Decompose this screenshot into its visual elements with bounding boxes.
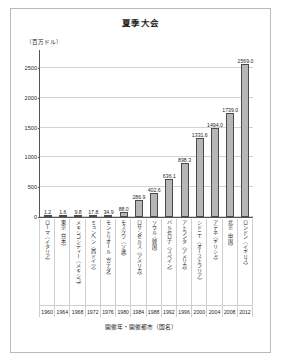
year-tick-label: 2000 <box>192 306 207 317</box>
bar-value-label: 1.6 <box>59 209 66 215</box>
category-label: モントリオール（カナダ） <box>105 219 110 305</box>
year-tick-label: 1980 <box>116 306 131 317</box>
chart-title: 夏季大会 <box>0 16 281 28</box>
y-tick-label: 1500 <box>25 125 37 131</box>
category-cell: アテネ（ギリシャ） <box>207 219 222 305</box>
year-tick-label: 1988 <box>147 306 162 317</box>
category-cell: メキシコシティー（メキシコ） <box>70 219 85 305</box>
category-cell: ロンドン（イギリス） <box>238 219 253 305</box>
bar-value-label: 88.0 <box>119 206 129 212</box>
bar[interactable]: 1331.6 <box>196 138 204 217</box>
year-tick-label: 1968 <box>70 306 85 317</box>
bar[interactable]: 2569.0 <box>241 64 249 217</box>
bar-slot: 1494.0 <box>207 50 222 217</box>
bar-slot: 1331.6 <box>192 50 207 217</box>
bar[interactable]: 286.9 <box>135 200 143 217</box>
y-tick-mark <box>38 217 41 218</box>
category-cell: ロサンゼルス（アメリカ） <box>131 219 146 305</box>
chart-page: 夏季大会 （百万ドル） 05001000150020002500 1.21.69… <box>0 0 281 361</box>
category-label: ローマ（イタリア） <box>44 219 49 305</box>
y-axis-unit-label: （百万ドル） <box>26 38 62 46</box>
y-tick-label: 2500 <box>25 65 37 71</box>
bar[interactable]: 9.8 <box>74 215 82 217</box>
bar-slot: 402.6 <box>147 50 162 217</box>
category-cell: 東京（日本） <box>55 219 70 305</box>
category-label: シドニー（オーストラリア） <box>197 219 202 305</box>
category-label: 北京（中国） <box>227 219 232 305</box>
bar-series: 1.21.69.817.834.988.0286.9402.6636.1898.… <box>40 50 253 217</box>
bar-value-label: 1739.0 <box>222 107 238 113</box>
bar-slot: 34.9 <box>101 50 116 217</box>
year-tick-label: 1972 <box>86 306 101 317</box>
year-tick-label: 1976 <box>101 306 116 317</box>
bar-value-label: 9.8 <box>74 209 81 215</box>
bar[interactable]: 402.6 <box>150 193 158 217</box>
year-tick-label: 1984 <box>131 306 146 317</box>
year-tick-label: 2004 <box>207 306 222 317</box>
category-cell: モントリオール（カナダ） <box>101 219 116 305</box>
y-tick-label: 2000 <box>25 95 37 101</box>
bar-slot: 2569.0 <box>238 50 253 217</box>
bar[interactable]: 1494.0 <box>211 128 219 217</box>
y-tick-label: 500 <box>28 184 37 190</box>
bar-value-label: 34.9 <box>103 209 113 215</box>
category-cell: バルセロナ（スペイン） <box>162 219 177 305</box>
bar[interactable]: 636.1 <box>165 179 173 217</box>
bar[interactable]: 17.8 <box>89 215 97 217</box>
bar-value-label: 286.9 <box>132 194 145 200</box>
bar-value-label: 636.1 <box>163 173 176 179</box>
bar[interactable]: 1739.0 <box>226 113 234 217</box>
category-label: バルセロナ（スペイン） <box>166 219 171 305</box>
category-label: 東京（日本） <box>60 219 65 305</box>
bar-value-label: 2569.0 <box>238 58 254 64</box>
bar[interactable]: 88.0 <box>120 212 128 217</box>
category-cell: ミュンヘン（西ドイツ） <box>86 219 101 305</box>
year-tick-label: 1996 <box>177 306 192 317</box>
category-cell: ローマ（イタリア） <box>39 219 55 305</box>
year-tick-label: 1964 <box>55 306 70 317</box>
year-tick-label: 2012 <box>238 306 253 317</box>
bar[interactable]: 34.9 <box>104 215 112 217</box>
category-labels: ローマ（イタリア）東京（日本）メキシコシティー（メキシコ）ミュンヘン（西ドイツ）… <box>39 219 253 305</box>
year-tick-label: 1992 <box>162 306 177 317</box>
y-tick-label: 1000 <box>25 154 37 160</box>
category-label: ミュンヘン（西ドイツ） <box>90 219 95 305</box>
category-label: ソウル（韓国） <box>151 219 156 305</box>
category-cell: シドニー（オーストラリア） <box>192 219 207 305</box>
bar-slot: 636.1 <box>162 50 177 217</box>
category-cell: ソウル（韓国） <box>147 219 162 305</box>
bar-value-label: 1494.0 <box>207 122 223 128</box>
category-cell: 北京（中国） <box>223 219 238 305</box>
category-label: モスクワ（ソ連） <box>121 219 126 305</box>
bar[interactable]: 1.2 <box>44 215 52 217</box>
bar-slot: 898.3 <box>177 50 192 217</box>
bar-slot: 1.2 <box>40 50 55 217</box>
category-cell: アトランタ（アメリカ） <box>177 219 192 305</box>
bar-slot: 286.9 <box>131 50 146 217</box>
category-label: ロサンゼルス（アメリカ） <box>136 219 141 305</box>
bar-slot: 88.0 <box>116 50 131 217</box>
bar-slot: 9.8 <box>70 50 85 217</box>
plot-area: 05001000150020002500 1.21.69.817.834.988… <box>39 50 253 218</box>
bar-value-label: 1331.6 <box>192 132 208 138</box>
bar-value-label: 898.3 <box>178 157 191 163</box>
bar-slot: 1739.0 <box>223 50 238 217</box>
category-label: メキシコシティー（メキシコ） <box>75 219 80 305</box>
category-label: アトランタ（アメリカ） <box>181 219 186 305</box>
year-axis: 1960196419681972197619801984198819921996… <box>39 305 253 317</box>
year-tick-label: 2008 <box>223 306 238 317</box>
bar[interactable]: 1.6 <box>59 215 67 217</box>
bar-slot: 17.8 <box>86 50 101 217</box>
category-cell: モスクワ（ソ連） <box>116 219 131 305</box>
bar-slot: 1.6 <box>55 50 70 217</box>
category-label: ロンドン（イギリス） <box>242 219 247 305</box>
x-axis-title: 開催年・開催都市（国名） <box>0 322 281 331</box>
bar-value-label: 17.8 <box>88 209 98 215</box>
bar-value-label: 402.6 <box>148 187 161 193</box>
year-tick-label: 1960 <box>39 306 55 317</box>
bar-value-label: 1.2 <box>44 209 51 215</box>
bar[interactable]: 898.3 <box>181 163 189 217</box>
category-label: アテネ（ギリシャ） <box>212 219 217 305</box>
